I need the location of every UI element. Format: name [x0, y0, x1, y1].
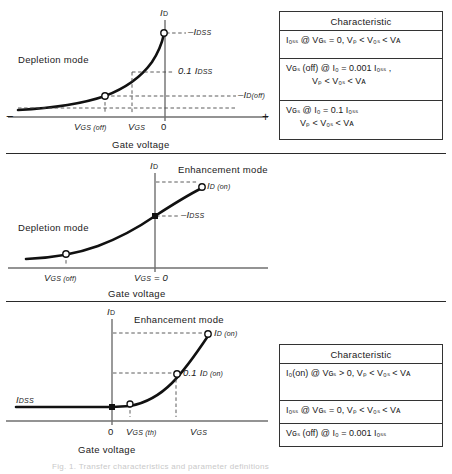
- panel-depletion-enhancement-mode: ID Enhancement mode Depletion mode ID (o…: [0, 155, 452, 303]
- panel-divider-1: [6, 153, 446, 154]
- table-cell-line: I₀ₛₛ @ Vɢₛ = 0, Vₚ < V₀ₛ < Vᴀ: [286, 34, 437, 47]
- marker-vgs-off: [102, 93, 108, 99]
- panel-divider-2: [6, 301, 446, 302]
- label-idss: –IDSS: [181, 210, 204, 220]
- marker-origin-point: [109, 404, 115, 410]
- tick-origin: 0: [108, 427, 113, 437]
- tick-vgs: VGS: [128, 122, 145, 132]
- table-row: Vɢₛ (off) @ I₀ = 0.001 I₀ₛₛ , Vₚ < V₀ₛ <…: [280, 59, 442, 101]
- figure-caption: Fig. 1. Transfer characteristics and par…: [52, 462, 292, 471]
- table-row: I₀ₛₛ @ Vɢₛ = 0, Vₚ < V₀ₛ < Vᴀ: [280, 31, 442, 59]
- label-id-on: ID (on): [207, 181, 231, 191]
- mode-label-enhancement: Enhancement mode: [178, 165, 268, 175]
- x-axis-label: Gate voltage: [78, 445, 135, 455]
- graph-depletion-enhancement: ID Enhancement mode Depletion mode ID (o…: [0, 155, 276, 303]
- mode-label-enhancement: Enhancement mode: [134, 315, 224, 325]
- table-row: Vɢₛ @ I₀ = 0.1 I₀ₛₛ Vₚ < V₀ₛ < Vᴀ: [280, 101, 442, 138]
- plus-sign: +: [262, 111, 269, 123]
- mode-label-depletion: Depletion mode: [18, 223, 89, 233]
- label-01-id-on: 0.1 ID (on): [183, 368, 223, 378]
- label-idss: IDSS: [16, 395, 34, 405]
- graph-depletion-mode: ID Depletion mode –IDSS 0.1 IDSS –ID(off…: [0, 0, 276, 155]
- label-idss: –IDSS: [188, 27, 211, 37]
- y-axis-label: ID: [160, 8, 168, 18]
- table-cell-line: Vₚ < V₀ₛ < Vᴀ: [286, 75, 437, 88]
- tick-vgs: VGS: [190, 427, 207, 437]
- tick-vgs-off: VGS (off): [44, 273, 77, 283]
- label-01-idss: 0.1 IDSS: [178, 66, 213, 76]
- table-cell-line: Vɢₛ @ I₀ = 0.1 I₀ₛₛ: [286, 104, 437, 117]
- marker-id-on: [205, 331, 211, 337]
- marker-idss: [152, 213, 158, 219]
- label-id-off: –ID(off): [238, 90, 265, 100]
- marker-01-id-on: [174, 371, 180, 377]
- table-cell-line: Vɢₛ (off) @ I₀ = 0.001 I₀ₛₛ ,: [286, 62, 437, 75]
- panel-enhancement-mode: ID Enhancement mode ID (on) 0.1 ID (on) …: [0, 303, 452, 474]
- marker-id-on: [199, 184, 205, 190]
- x-axis-label: Gate voltage: [108, 289, 165, 299]
- table-header: Characteristic: [280, 12, 442, 31]
- mode-label-depletion: Depletion mode: [18, 55, 89, 65]
- characteristic-table-1: Characteristic I₀ₛₛ @ Vɢₛ = 0, Vₚ < V₀ₛ …: [279, 11, 443, 140]
- label-id-on: ID (on): [214, 328, 238, 338]
- transfer-curve: [18, 34, 164, 110]
- y-axis-label: ID: [150, 161, 158, 171]
- tick-vgs-zero: VGS = 0: [134, 273, 168, 283]
- panel-depletion-mode: ID Depletion mode –IDSS 0.1 IDSS –ID(off…: [0, 0, 452, 155]
- marker-idss: [161, 30, 167, 36]
- tick-vgs-th: VGS (th): [126, 427, 157, 437]
- graph-enhancement-mode: ID Enhancement mode ID (on) 0.1 ID (on) …: [0, 303, 276, 474]
- tick-origin: 0: [161, 122, 166, 132]
- y-axis-label: ID: [107, 307, 115, 317]
- x-axis-label: Gate voltage: [112, 140, 169, 150]
- marker-vgs-th: [127, 401, 133, 407]
- minus-sign: −: [6, 110, 14, 123]
- marker-vgs-off: [63, 251, 69, 257]
- table-cell-line: Vₚ < V₀ₛ < Vᴀ: [286, 117, 437, 130]
- tick-vgs-off: VGS (off): [74, 122, 107, 132]
